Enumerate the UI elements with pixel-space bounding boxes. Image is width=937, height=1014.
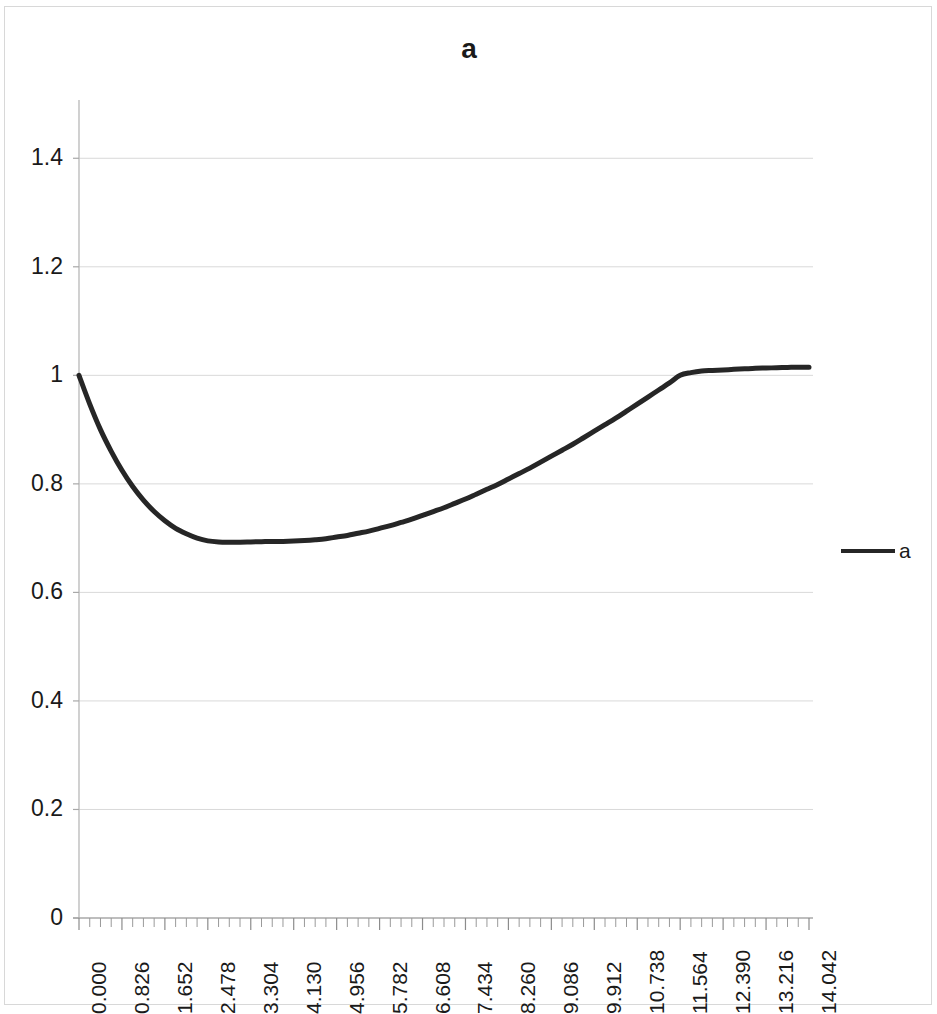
x-axis-tick-label: 6.608	[431, 961, 455, 1014]
y-axis-tick-label: 1	[50, 361, 63, 388]
y-axis-tick-label: 1.2	[31, 253, 63, 280]
x-axis-tick-label: 2.478	[216, 961, 240, 1014]
x-axis-tick-label: 5.782	[388, 961, 412, 1014]
legend-label: a	[899, 540, 911, 561]
x-axis-tick-label: 0.826	[130, 961, 154, 1014]
x-axis-tick-label: 10.738	[645, 950, 669, 1014]
y-axis-tick-label: 0.2	[31, 795, 63, 822]
x-axis-tick-label: 12.390	[731, 950, 755, 1014]
x-axis-tick-label: 4.130	[302, 961, 326, 1014]
y-axis-tick-label: 1.4	[31, 144, 63, 171]
data-series	[79, 367, 809, 542]
y-axis-tick-label: 0.6	[31, 578, 63, 605]
x-axis-tick-label: 11.564	[688, 951, 712, 1014]
x-axis-tick-label: 9.086	[559, 961, 583, 1014]
y-axis-tick-label: 0	[50, 904, 63, 931]
chart-legend: a	[841, 540, 911, 561]
x-axis-tick-label: 13.216	[774, 950, 798, 1014]
legend-line-swatch	[841, 549, 895, 553]
y-axis-tick-label: 0.8	[31, 470, 63, 497]
y-axis-tick-label: 0.4	[31, 687, 63, 714]
x-axis-tick-label: 3.304	[259, 961, 283, 1014]
tick-marks	[73, 158, 809, 930]
plot-area	[5, 7, 933, 1006]
gridlines	[79, 158, 813, 809]
x-axis-tick-label: 8.260	[516, 961, 540, 1014]
x-axis-tick-label: 7.434	[473, 961, 497, 1014]
x-axis-tick-label: 4.956	[345, 961, 369, 1014]
chart-container: a 00.20.40.60.811.21.4 0.0000.8261.6522.…	[4, 6, 932, 1005]
x-axis-tick-label: 1.652	[173, 961, 197, 1014]
x-axis-tick-label: 0.000	[87, 961, 111, 1014]
x-axis-tick-label: 14.042	[817, 950, 841, 1014]
x-axis-tick-label: 9.912	[602, 961, 626, 1014]
